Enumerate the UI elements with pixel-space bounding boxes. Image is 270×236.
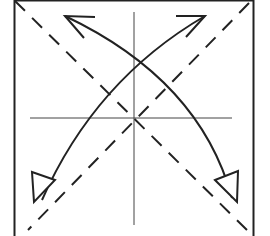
origami-diagram	[0, 0, 270, 236]
arrow-head-top-left-icon	[65, 16, 95, 38]
valley-fold-diagonal-tr-bl	[28, 3, 249, 230]
hollow-arrowhead-bottom-right-icon	[215, 171, 238, 202]
